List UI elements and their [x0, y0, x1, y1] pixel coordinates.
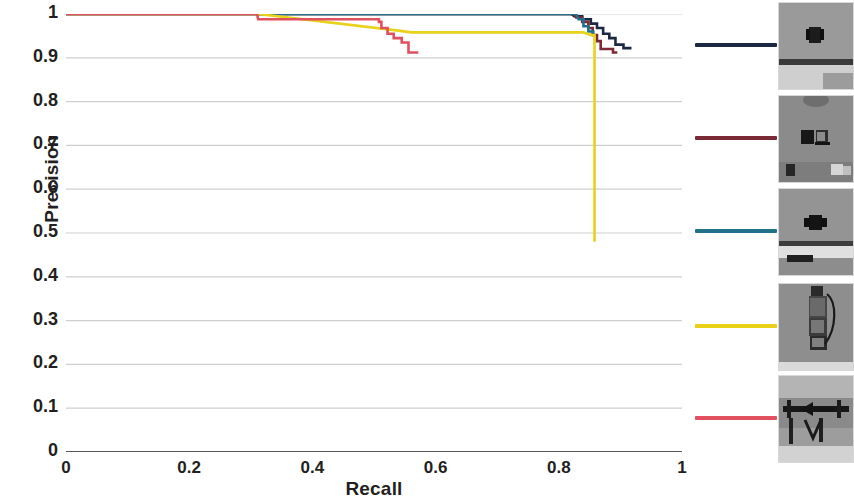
clips-on-desk-thumb	[778, 95, 854, 183]
legend-color-swatch	[695, 229, 777, 233]
x-tick-label: 0.6	[406, 458, 466, 478]
y-tick-label: 0.8	[12, 90, 58, 111]
legend-item[interactable]	[690, 283, 852, 371]
legend-color-swatch	[695, 324, 777, 328]
legend-color-swatch	[695, 136, 777, 140]
x-tick-label: 0.4	[282, 458, 342, 478]
x-tick-label: 0	[36, 458, 96, 478]
clip-on-table-thumb	[778, 2, 854, 90]
y-tick-label: 0.9	[12, 46, 58, 67]
legend-item[interactable]	[690, 95, 852, 183]
y-tick-label: 0.1	[12, 396, 58, 417]
legend	[690, 0, 852, 502]
y-tick-label: 0.7	[12, 133, 58, 154]
y-tick-label: 0.5	[12, 221, 58, 242]
clip-closeup-thumb	[778, 188, 854, 276]
x-tick-label: 0.8	[529, 458, 589, 478]
legend-color-swatch	[695, 43, 777, 47]
legend-item[interactable]	[690, 2, 852, 90]
plot-area	[66, 14, 682, 452]
y-tick-label: 0.2	[12, 352, 58, 373]
stacked-clips-thumb	[778, 283, 854, 371]
y-tick-label: 1	[12, 2, 58, 23]
x-axis-title: Recall	[66, 478, 682, 500]
y-axis-ticks: 00.10.20.30.40.50.60.70.80.91	[0, 0, 58, 460]
y-tick-label: 0.6	[12, 177, 58, 198]
series-line-object-4	[66, 14, 595, 242]
legend-color-swatch	[695, 416, 777, 420]
series-line-object-5	[66, 14, 418, 53]
legend-item[interactable]	[690, 375, 852, 463]
y-tick-label: 0.3	[12, 309, 58, 330]
plot-svg	[66, 14, 682, 452]
y-tick-label: 0.4	[12, 265, 58, 286]
arrow-sign-thumb	[778, 375, 854, 463]
legend-item[interactable]	[690, 188, 852, 276]
x-tick-label: 0.2	[159, 458, 219, 478]
